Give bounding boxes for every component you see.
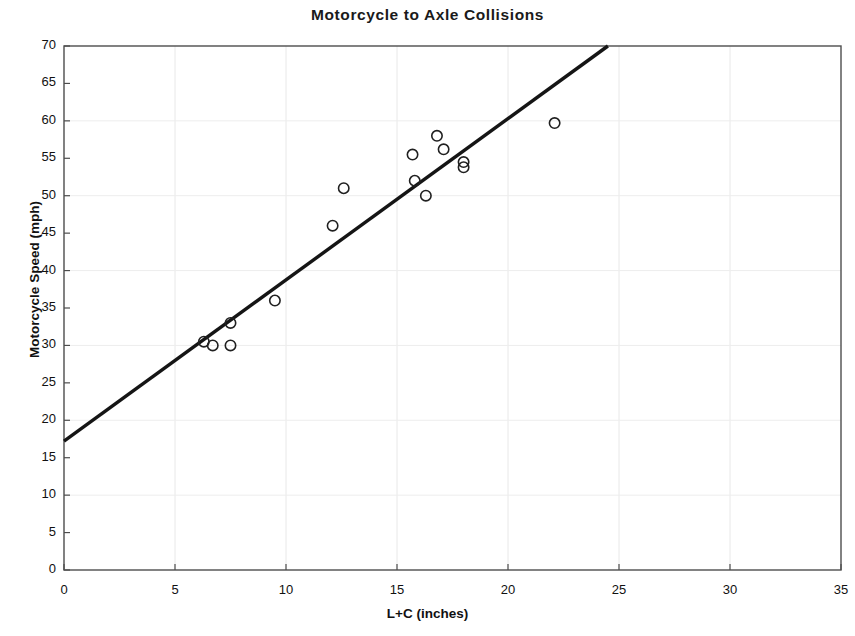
chart-figure: Motorcycle to Axle Collisions Motorcycle… — [0, 0, 855, 636]
data-point — [438, 144, 448, 154]
data-point — [407, 149, 417, 159]
data-points — [199, 118, 560, 351]
data-point — [549, 118, 559, 128]
data-point — [432, 131, 442, 141]
data-point — [327, 220, 337, 230]
plot-area — [0, 0, 855, 636]
plot-frame — [64, 46, 841, 570]
gridlines — [64, 46, 841, 570]
data-point — [339, 183, 349, 193]
data-point — [270, 295, 280, 305]
trend-line — [64, 46, 608, 441]
tick-marks — [64, 46, 841, 570]
